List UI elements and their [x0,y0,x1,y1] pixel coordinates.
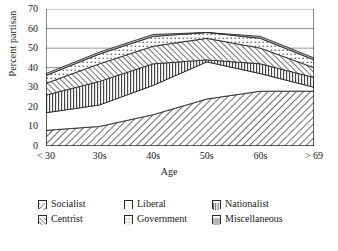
y-tick-label: 30 [28,82,38,92]
legend-label: Centrist [51,213,83,225]
x-tick-label: 30s [93,150,107,161]
x-axis-title: Age [0,166,338,177]
legend-swatch-vertical-lines-icon [212,200,221,209]
x-tick-label: > 69 [305,150,323,161]
legend-label: Socialist [51,198,85,210]
chart-legend: SocialistLiberalNationalistCentristGover… [0,198,338,228]
legend-label: Government [137,213,187,225]
plot-area [46,9,314,146]
legend-label: Nationalist [225,198,269,210]
legend-swatch-diagonal-hatch-icon [38,200,47,209]
y-tick-label: 70 [28,4,38,14]
legend-label: Miscellaneous [225,213,283,225]
legend-item-centrist[interactable]: Centrist [26,213,124,225]
legend-item-socialist[interactable]: Socialist [26,198,124,210]
y-tick-label: 60 [28,24,38,34]
legend-item-miscellaneous[interactable]: Miscellaneous [212,213,312,225]
x-tick-label: 60s [253,150,267,161]
y-tick-label: 20 [28,102,38,112]
legend-swatch-cross-diagonal-hatch-icon [38,215,47,224]
legend-item-liberal[interactable]: Liberal [124,198,212,210]
x-tick-label: 40s [146,150,160,161]
legend-swatch-light-solid-icon [212,215,221,224]
x-tick-label: 50s [200,150,214,161]
legend-swatch-blank-icon [124,200,133,209]
y-tick-label: 10 [28,121,38,131]
legend-label: Liberal [137,198,166,210]
legend-row: CentristGovernmentMiscellaneous [0,213,338,225]
chart-figure: 706050403020100 Percent partisan [0,0,338,251]
stacked-area-chart [46,9,314,146]
x-tick-label: < 30 [37,150,55,161]
legend-item-nationalist[interactable]: Nationalist [212,198,312,210]
y-tick-label: 40 [28,63,38,73]
x-axis-tick-labels: < 3030s40s50s60s> 69 [46,150,314,164]
area-bands [46,32,314,146]
legend-swatch-dotted-icon [124,215,133,224]
legend-item-government[interactable]: Government [124,213,212,225]
y-tick-label: 50 [28,43,38,53]
y-axis-title: Percent partisan [7,0,18,92]
legend-row: SocialistLiberalNationalist [0,198,338,210]
